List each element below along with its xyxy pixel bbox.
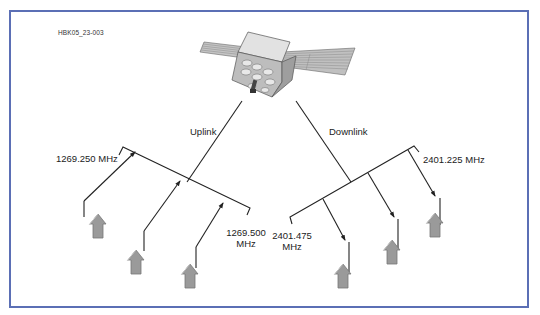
downlink-freq-high: 2401.225 MHz: [423, 154, 485, 165]
uplink-freq-high-unit: MHz: [226, 238, 266, 249]
downlink-tree: [290, 146, 440, 272]
satellite-icon: [200, 32, 355, 97]
uplink-freq-high: 1269.500 MHz: [226, 227, 266, 249]
downlink-label: Downlink: [329, 126, 368, 137]
downlink-freq-low-unit: MHz: [272, 241, 312, 252]
uplink-main-line: [187, 101, 242, 182]
downlink-freq-low: 2401.475 MHz: [272, 230, 312, 252]
downlink-freq-low-value: 2401.475: [272, 230, 312, 241]
downlink-main-line: [296, 101, 351, 182]
uplink-freq-low: 1269.250 MHz: [56, 153, 118, 164]
uplink-label: Uplink: [190, 126, 216, 137]
ground-station-icon: [89, 214, 106, 238]
ground-station-icon: [127, 250, 144, 274]
uplink-freq-high-value: 1269.500: [226, 227, 266, 238]
uplink-tree: [84, 147, 250, 268]
downlink-ground-stations: [334, 213, 443, 288]
